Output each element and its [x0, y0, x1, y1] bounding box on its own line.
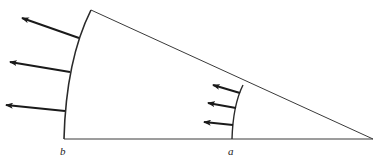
inner-arrow-3	[204, 122, 233, 125]
outer-arc-b	[64, 10, 91, 139]
label-a: a	[228, 145, 234, 157]
diagram-svg	[0, 0, 383, 162]
inner-arrow-1	[213, 85, 240, 93]
diagonal-line	[91, 10, 373, 139]
outer-arrow-3	[6, 105, 65, 111]
outer-arrow-2	[10, 62, 70, 72]
wedge-diagram: b a	[0, 0, 383, 162]
inner-arrows	[204, 85, 240, 125]
outer-arrows	[6, 18, 79, 111]
label-b: b	[60, 145, 66, 157]
inner-arrow-2	[208, 103, 236, 108]
outer-arrow-1	[22, 18, 79, 38]
